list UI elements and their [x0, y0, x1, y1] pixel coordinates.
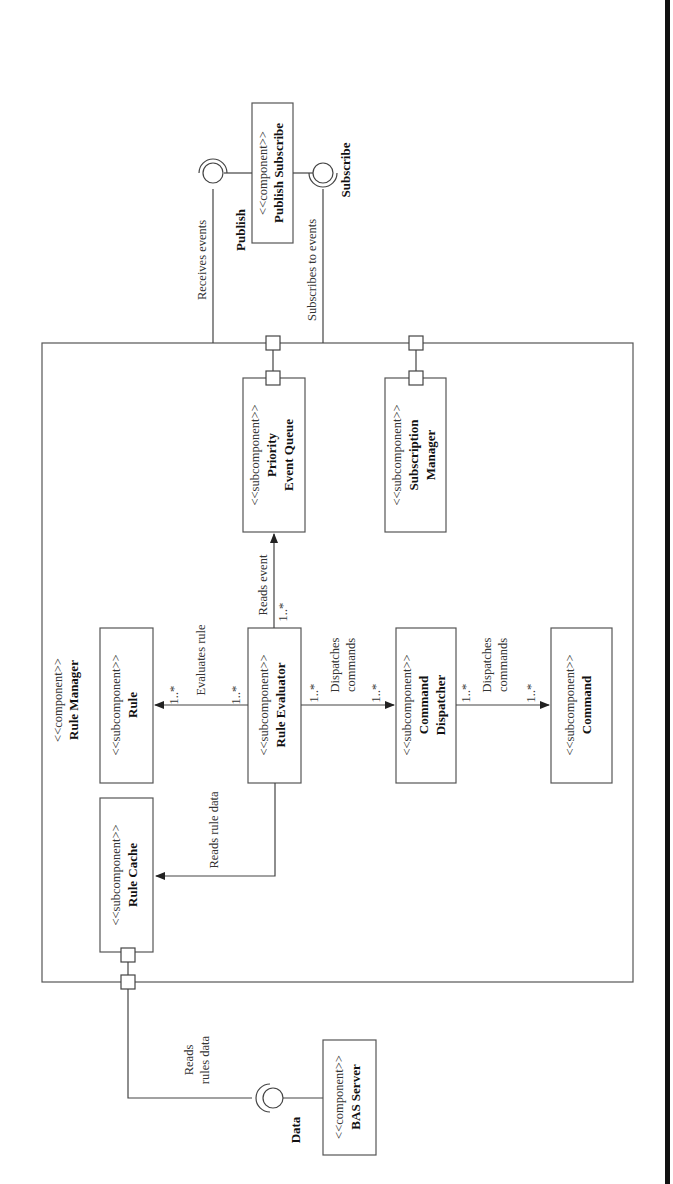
- reads-event-label: Reads event: [256, 554, 270, 615]
- publish-subscribe-name: Publish Subscribe: [271, 123, 286, 223]
- subscribe-interface-label: Subscribe: [338, 142, 353, 197]
- rule-evaluator-stereotype: <<subcomponent>>: [257, 654, 271, 755]
- evaluates-rule-label: Evaluates rule: [194, 624, 208, 696]
- subscription-manager-name-2: Manager: [423, 430, 438, 481]
- reads-rule-data-label: Reads rule data: [207, 791, 221, 869]
- reads-rules-data-port[interactable]: [121, 975, 135, 989]
- publish-interface-label: Publish: [233, 208, 248, 251]
- data-interface-lollipop-icon: [263, 1088, 283, 1108]
- rule-cache-name: Rule Cache: [125, 843, 140, 907]
- priority-event-queue-stereotype: <<subcomponent>>: [248, 404, 262, 505]
- dispatch2-src-multiplicity: 1..*: [459, 684, 473, 703]
- subscribes-to-events-label: Subscribes to events: [305, 219, 319, 321]
- rule-evaluator-name: Rule Evaluator: [273, 662, 288, 747]
- priority-event-queue-port[interactable]: [266, 371, 280, 385]
- receives-events-label: Receives events: [195, 220, 209, 300]
- priority-event-queue-name-2: Event Queue: [281, 419, 296, 491]
- publish-subscribe-stereotype: <<component>>: [256, 131, 270, 215]
- rule-manager-name: Rule Manager: [66, 660, 81, 740]
- command-dispatcher-name-2: Dispatcher: [433, 674, 448, 735]
- subscription-manager-stereotype: <<subcomponent>>: [390, 404, 404, 505]
- subscription-manager-port[interactable]: [409, 371, 423, 385]
- rule-manager-stereotype: <<component>>: [51, 658, 65, 742]
- dispatch1-dst-multiplicity: 1..*: [369, 684, 383, 703]
- subscribe-events-port[interactable]: [409, 336, 423, 350]
- component-diagram: <<component>> Rule Manager <<component>>…: [0, 0, 673, 1184]
- reads-rules-data-label-1: Reads: [182, 1045, 196, 1076]
- publish-interface-lollipop-icon: [203, 163, 223, 183]
- evaluates-rule-src-multiplicity: 1..*: [229, 686, 243, 705]
- command-name: Command: [579, 675, 594, 734]
- subscribe-interface-lollipop-icon: [313, 163, 333, 183]
- reads-rules-data-label-2: rules data: [198, 1035, 212, 1084]
- evaluates-rule-dst-multiplicity: 1..*: [167, 686, 181, 705]
- rule-cache-stereotype: <<subcomponent>>: [109, 824, 123, 925]
- reads-event-multiplicity: 1..*: [276, 603, 290, 622]
- page-edge-bar: [665, 0, 670, 1184]
- data-interface-label: Data: [288, 1116, 303, 1143]
- dispatches-commands-label-2b: commands: [496, 638, 510, 692]
- subscription-manager-name-1: Subscription: [406, 419, 421, 491]
- dispatches-commands-label-1a: Dispatches: [328, 637, 342, 692]
- priority-event-queue-name-1: Priority: [264, 432, 279, 477]
- rule-cache-port[interactable]: [121, 948, 135, 962]
- dispatches-commands-label-2a: Dispatches: [480, 637, 494, 692]
- rule-name: Rule: [125, 692, 140, 718]
- dispatch2-dst-multiplicity: 1..*: [524, 684, 538, 703]
- rule-stereotype: <<subcomponent>>: [109, 654, 123, 755]
- command-dispatcher-name-1: Command: [416, 675, 431, 734]
- bas-server-stereotype: <<component>>: [332, 1055, 346, 1139]
- dispatches-commands-label-1b: commands: [344, 638, 358, 692]
- receive-events-port[interactable]: [266, 336, 280, 350]
- command-stereotype: <<subcomponent>>: [563, 654, 577, 755]
- dispatch1-src-multiplicity: 1..*: [307, 684, 321, 703]
- bas-server-name: BAS Server: [348, 1064, 363, 1130]
- reads-rules-data-connector: [128, 989, 252, 1098]
- command-dispatcher-stereotype: <<subcomponent>>: [400, 654, 414, 755]
